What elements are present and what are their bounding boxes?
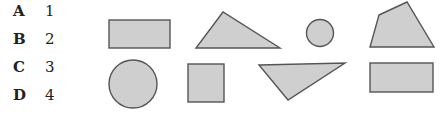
rectangle-shape [109,20,170,48]
quadrilateral-shape [370,2,434,47]
rectangle-shape-2 [370,63,433,92]
small-circle-shape [307,20,334,47]
square-shape [188,64,224,102]
shapes-figure [0,0,448,120]
inverted-triangle-shape [259,63,345,100]
triangle-shape [196,12,280,48]
large-circle-shape [109,60,157,108]
